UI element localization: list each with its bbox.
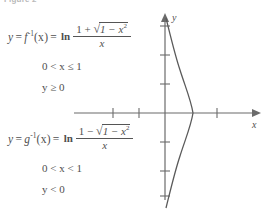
curve-f-inverse-upper-branch: [166, 18, 193, 113]
curve-g-inverse-lower-branch: [166, 113, 193, 208]
x-axis-label: x: [251, 119, 257, 130]
figure-container: Figure 2 y=f-1(x)= ln 1 + √1 − x2 x 0 < …: [0, 0, 267, 213]
coordinate-graph: y x: [0, 0, 267, 213]
y-axis-arrowhead: [161, 13, 169, 22]
x-axis-arrowhead: [252, 109, 261, 117]
y-axis-label: y: [171, 12, 177, 23]
